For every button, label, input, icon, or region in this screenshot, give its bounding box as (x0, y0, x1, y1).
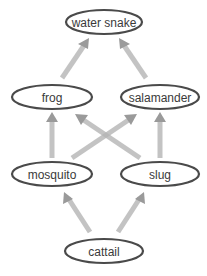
arrow-salamander-to-water-snake (119, 38, 146, 78)
node-salamander: salamander (121, 85, 199, 109)
node-label: cattail (88, 245, 119, 259)
node-frog: frog (12, 85, 92, 109)
node-slug: slug (121, 162, 199, 186)
arrow-slug-to-salamander (154, 112, 166, 158)
arrow-cattail-to-slug (118, 192, 145, 232)
node-cattail: cattail (65, 239, 143, 263)
arrow-mosquito-to-frog (46, 112, 58, 158)
arrows (46, 38, 166, 232)
node-label: salamander (129, 91, 192, 105)
node-water-snake: water snake (66, 10, 142, 34)
node-label: slug (149, 168, 171, 182)
food-web-diagram: water snake frog salamander mosquito slu… (0, 0, 207, 276)
node-mosquito: mosquito (12, 162, 92, 186)
arrow-cattail-to-mosquito (63, 192, 90, 232)
node-label: mosquito (28, 168, 77, 182)
arrow-frog-to-water-snake (62, 38, 89, 78)
node-label: frog (42, 91, 63, 105)
node-label: water snake (71, 16, 137, 30)
